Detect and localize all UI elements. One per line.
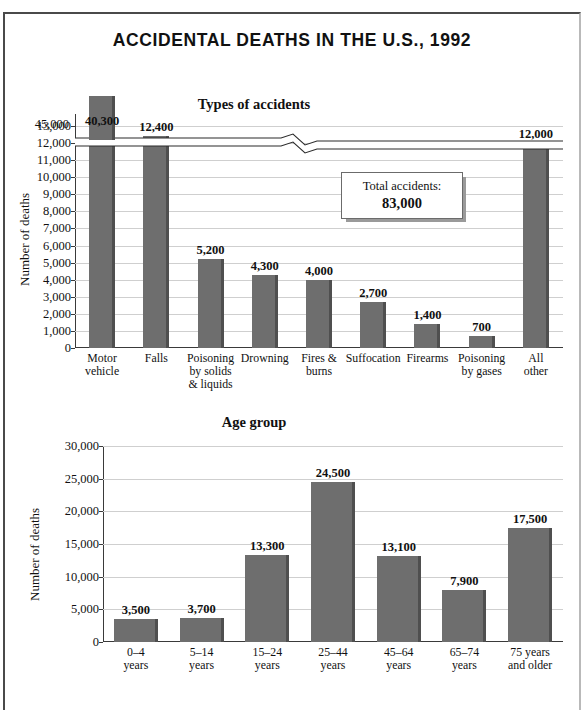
x-tick-line: years bbox=[189, 659, 214, 672]
x-tick-label: Poisoningby gases bbox=[458, 352, 505, 378]
y-tick-mark bbox=[99, 544, 103, 545]
y-tick-label: 12,000 bbox=[37, 136, 71, 151]
x-tick-label: 5–14years bbox=[189, 646, 214, 672]
bar-value-label: 17,500 bbox=[513, 512, 547, 527]
x-tick-line: Drowning bbox=[241, 352, 289, 365]
y-tick-mark bbox=[71, 280, 75, 281]
y-tick-mark bbox=[71, 297, 75, 298]
chart2-y-axis-label: Number of deaths bbox=[27, 489, 43, 619]
bar bbox=[306, 280, 332, 348]
y-tick-mark bbox=[99, 609, 103, 610]
bar-value-label: 5,200 bbox=[196, 243, 224, 258]
y-tick-label: 5,000 bbox=[43, 255, 71, 270]
figure-frame: ACCIDENTAL DEATHS IN THE U.S., 1992 Type… bbox=[3, 12, 581, 710]
bar-top-segment bbox=[89, 128, 115, 140]
bar bbox=[252, 275, 278, 348]
x-tick-label: Firearms bbox=[406, 352, 448, 365]
x-tick-label: 45–64years bbox=[384, 646, 414, 672]
y-tick-label: 3,000 bbox=[43, 289, 71, 304]
bar bbox=[245, 555, 289, 642]
y-tick-label: 9,000 bbox=[43, 187, 71, 202]
y-tick-mark bbox=[71, 160, 75, 161]
y-tick-mark bbox=[71, 314, 75, 315]
bar-value-label: 7,900 bbox=[450, 574, 478, 589]
y-tick-mark bbox=[99, 642, 103, 643]
x-tick-line: years bbox=[384, 659, 414, 672]
bar bbox=[377, 556, 421, 642]
x-tick-line: Falls bbox=[145, 352, 168, 365]
x-tick-label: 15–24years bbox=[253, 646, 283, 672]
bar bbox=[143, 136, 169, 348]
x-tick-line: Suffocation bbox=[346, 352, 401, 365]
x-tick-label: Allother bbox=[524, 352, 548, 378]
y-tick-mark bbox=[71, 246, 75, 247]
y-tick-mark bbox=[71, 194, 75, 195]
y-tick-label: 20,000 bbox=[65, 504, 99, 519]
bar-value-label: 4,000 bbox=[305, 264, 333, 279]
y-tick-label: 15,000 bbox=[65, 537, 99, 552]
y-tick-label: 6,000 bbox=[43, 238, 71, 253]
bar bbox=[311, 482, 355, 642]
y-tick-label: 1,000 bbox=[43, 323, 71, 338]
gridline bbox=[103, 446, 563, 447]
total-accidents-value: 83,000 bbox=[382, 195, 422, 212]
total-accidents-callout: Total accidents: 83,000 bbox=[341, 172, 463, 219]
x-tick-line: years bbox=[253, 659, 283, 672]
bar-value-label: 13,100 bbox=[382, 540, 416, 555]
chart1-y-axis-label: Number of deaths bbox=[17, 174, 33, 304]
bar-value-label: 13,300 bbox=[250, 539, 284, 554]
x-tick-line: Firearms bbox=[406, 352, 448, 365]
y-tick-mark bbox=[99, 446, 103, 447]
y-tick-label: 5,000 bbox=[71, 602, 99, 617]
x-tick-label: Poisoningby solids& liquids bbox=[187, 352, 234, 392]
y-tick-label: 2,000 bbox=[43, 306, 71, 321]
bar bbox=[114, 619, 158, 642]
x-tick-label: 25–44years bbox=[318, 646, 348, 672]
bar bbox=[508, 528, 552, 642]
bar-value-label: 2,700 bbox=[359, 286, 387, 301]
y-tick-label: 30,000 bbox=[65, 439, 99, 454]
y-tick-label: 11,000 bbox=[37, 153, 71, 168]
y-tick-label: 10,000 bbox=[65, 569, 99, 584]
bar bbox=[414, 324, 440, 348]
y-tick-label: 0 bbox=[65, 341, 71, 356]
chart-types-of-accidents: Types of accidents Number of deaths 01,0… bbox=[5, 14, 583, 394]
y-tick-label: 4,000 bbox=[43, 272, 71, 287]
x-tick-label: Falls bbox=[145, 352, 168, 365]
bar bbox=[180, 618, 224, 642]
bar bbox=[198, 259, 224, 348]
y-tick-mark bbox=[71, 263, 75, 264]
bar-value-label: 12,000 bbox=[519, 127, 553, 142]
total-accidents-label: Total accidents: bbox=[363, 179, 442, 194]
x-tick-line: burns bbox=[301, 365, 337, 378]
y-tick-mark bbox=[99, 479, 103, 480]
bar-value-label: 700 bbox=[472, 320, 491, 335]
x-tick-label: Suffocation bbox=[346, 352, 401, 365]
y-tick-mark bbox=[71, 228, 75, 229]
bar bbox=[469, 336, 495, 348]
bar-value-label: 3,500 bbox=[122, 603, 150, 618]
chart2-title: Age group bbox=[0, 414, 543, 431]
bar-value-label: 1,400 bbox=[413, 308, 441, 323]
y-tick-label: 7,000 bbox=[43, 221, 71, 236]
chart-age-group: Age group Number of deaths 05,00010,0001… bbox=[5, 394, 583, 710]
bar-value-label: 24,500 bbox=[316, 466, 350, 481]
y-tick-label: 0 bbox=[93, 635, 99, 650]
y-tick-label: 10,000 bbox=[37, 170, 71, 185]
y-tick-label-above-break: 45,000 bbox=[35, 117, 69, 132]
x-tick-line: and older bbox=[508, 659, 552, 672]
bar-value-label: 40,300 bbox=[85, 114, 119, 129]
y-tick-mark bbox=[99, 511, 103, 512]
y-tick-label: 25,000 bbox=[65, 471, 99, 486]
bar bbox=[360, 302, 386, 348]
y-tick-mark bbox=[71, 211, 75, 212]
x-tick-line: by gases bbox=[458, 365, 505, 378]
bar bbox=[523, 143, 549, 348]
x-tick-label: 65–74years bbox=[450, 646, 480, 672]
x-tick-label: Fires &burns bbox=[301, 352, 337, 378]
y-tick-mark bbox=[71, 348, 75, 349]
bar-value-label: 3,700 bbox=[188, 602, 216, 617]
x-tick-label: 0–4years bbox=[123, 646, 148, 672]
bar bbox=[442, 590, 486, 642]
bar-value-label: 12,400 bbox=[139, 120, 173, 135]
